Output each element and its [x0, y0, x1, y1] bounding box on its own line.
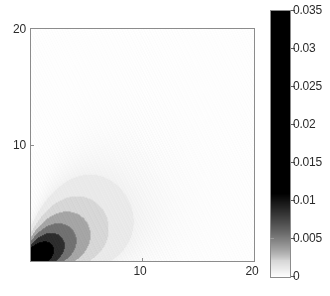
x-axis-tick-label-20: 20: [237, 264, 267, 278]
colorbar-label-0: 0: [293, 269, 299, 283]
colorbar-label-002: 0.02: [293, 117, 316, 131]
heatmap-field: [31, 29, 254, 261]
colorbar-label-0015: 0.015: [293, 155, 322, 169]
colorbar-label-0025: 0.025: [293, 79, 322, 93]
xtick-mark-20: [254, 258, 255, 262]
colorbar-label-003: 0.03: [293, 41, 316, 55]
y-axis-tick-label-10: 10: [0, 138, 26, 152]
colorbar-label-0005: 0.005: [293, 231, 322, 245]
colorbar-label-0035: 0.035: [293, 3, 322, 17]
figure-canvas: 20 10 10 20 0.035 0.03 0.025 0.02 0.015 …: [0, 0, 330, 296]
xtick-mark-10: [142, 258, 143, 262]
ytick-mark-20: [30, 28, 34, 29]
x-axis-tick-label-10: 10: [125, 264, 155, 278]
y-axis-tick-label-20: 20: [0, 22, 26, 36]
ytick-mark-10: [30, 145, 34, 146]
plot-axes: [30, 28, 255, 262]
colorbar-inner-tick-0005: [270, 238, 274, 239]
colorbar-label-001: 0.01: [293, 193, 316, 207]
